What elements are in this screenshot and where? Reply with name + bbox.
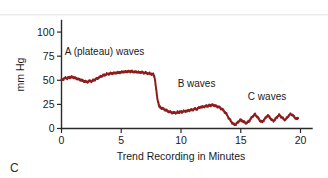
panel-letter: C [10, 161, 19, 175]
y-axis-ticks: 0255075100 [37, 26, 62, 134]
y-axis: 0255075100 [37, 21, 62, 135]
x-tick-label: 5 [118, 134, 124, 146]
x-axis: 05101520 [59, 129, 312, 146]
x-tick-label: 15 [235, 134, 247, 146]
y-tick-label: 100 [37, 26, 55, 38]
x-axis-label: Trend Recording in Minutes [117, 150, 246, 162]
y-axis-label: mm Hg [14, 57, 26, 91]
x-tick-label: 20 [295, 134, 307, 146]
annotation-label: C waves [248, 91, 286, 102]
annotation-label: A (plateau) waves [65, 46, 145, 57]
figure-panel-c: 0255075100 05101520 A (plateau) wavesB w… [0, 0, 328, 178]
annotation-label: B waves [178, 78, 216, 89]
y-tick-label: 25 [43, 98, 55, 110]
y-tick-label: 0 [49, 122, 55, 134]
y-tick-label: 50 [43, 74, 55, 86]
icp-trend-chart: 0255075100 05101520 A (plateau) wavesB w… [0, 0, 328, 178]
x-axis-ticks: 05101520 [59, 129, 307, 146]
x-tick-label: 10 [175, 134, 187, 146]
x-tick-label: 0 [59, 134, 65, 146]
chart-annotations: A (plateau) wavesB wavesC waves [65, 46, 286, 101]
y-tick-label: 75 [43, 50, 55, 62]
